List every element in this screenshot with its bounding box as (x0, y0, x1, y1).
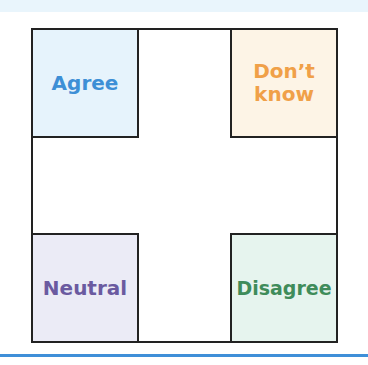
quadrant-label: Don’t know (249, 60, 319, 106)
quadrant-disagree: Disagree (230, 233, 336, 341)
bottom-rule (0, 354, 368, 357)
quadrant-neutral: Neutral (33, 233, 139, 341)
top-band (0, 0, 368, 12)
cross-diagram: Agree Don’t know Neutral Disagree (31, 28, 338, 343)
quadrant-label: Disagree (236, 277, 331, 300)
quadrant-dont-know: Don’t know (230, 30, 336, 138)
quadrant-label: Agree (52, 72, 119, 95)
quadrant-agree: Agree (33, 30, 139, 138)
quadrant-label: Neutral (43, 277, 127, 300)
